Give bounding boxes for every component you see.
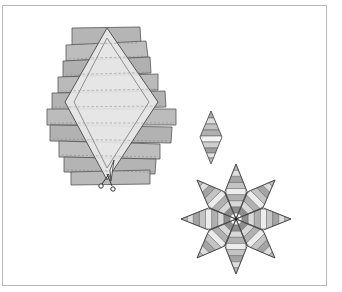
quilt-diagram [0, 0, 342, 292]
single-diamond [198, 110, 224, 165]
eight-point-star [181, 164, 291, 274]
